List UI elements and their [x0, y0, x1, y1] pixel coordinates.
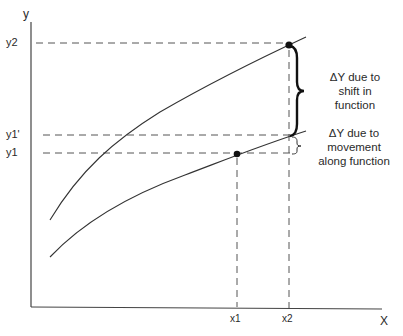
diagram-canvas — [0, 0, 403, 336]
x2-label: x2 — [282, 314, 293, 324]
shift-annotation-line2: shift in — [315, 84, 395, 98]
movement-annotation: ΔY due to movement along function — [305, 126, 403, 168]
shift-annotation-line1: ΔY due to — [315, 70, 395, 84]
movement-annotation-line3: along function — [305, 154, 403, 168]
x-axis — [31, 307, 382, 309]
x1-label: x1 — [230, 314, 241, 324]
x-axis-label: X — [380, 315, 388, 327]
y1-label: y1 — [6, 147, 18, 158]
y2-label: y2 — [6, 37, 18, 48]
y1-prime-label: y1' — [6, 129, 20, 140]
y-axis-label: y — [23, 8, 29, 20]
shift-annotation-line3: function — [315, 98, 395, 112]
movement-annotation-line2: movement — [305, 140, 403, 154]
curves — [50, 37, 306, 257]
lower-curve — [50, 131, 306, 257]
shift-brace — [290, 46, 304, 136]
upper-curve — [50, 37, 306, 220]
movement-brace — [292, 137, 301, 154]
point-x1-y1 — [234, 151, 241, 158]
shift-annotation: ΔY due to shift in function — [315, 70, 395, 112]
movement-annotation-line1: ΔY due to — [305, 126, 403, 140]
guide-lines — [36, 43, 291, 308]
